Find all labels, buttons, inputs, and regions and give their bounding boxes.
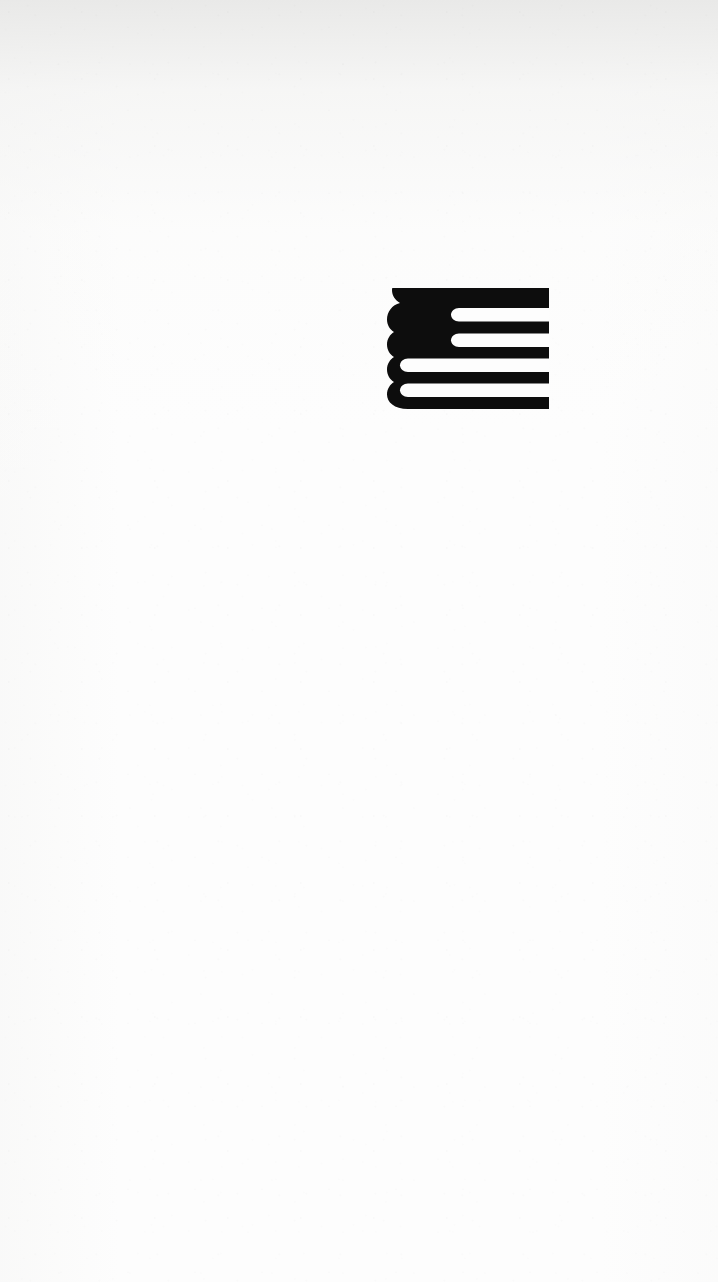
white-stripe-3: [400, 359, 549, 373]
paper-texture-overlay: [0, 0, 718, 1282]
scanned-page: [0, 0, 718, 1282]
white-stripe-1: [451, 308, 549, 322]
white-stripe-4: [400, 384, 549, 398]
white-stripe-2: [451, 334, 549, 348]
publisher-colophon-icon: [386, 288, 549, 409]
colophon-svg: [386, 288, 549, 409]
